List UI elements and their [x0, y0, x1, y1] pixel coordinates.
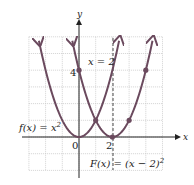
y-axis: y [76, 9, 83, 178]
y-axis-label: y [76, 9, 83, 19]
data-point [143, 68, 148, 73]
data-point [110, 134, 115, 139]
tick-label-origin: 0 [72, 140, 78, 151]
legend-f: f(x) = x2 [18, 121, 62, 133]
dashed-line-label: x = 2 [88, 56, 115, 67]
tick-label-y4: 4 [70, 67, 76, 78]
data-point [76, 68, 81, 73]
graph: x y 4 0 2 x = 2 f(x) = x2 F(x) = (x − 2)… [0, 0, 194, 185]
tick-label-x2: 2 [106, 140, 112, 151]
data-point [93, 118, 98, 123]
x-axis-label: x [183, 132, 188, 142]
legend-F: F(x) = (x − 2)2 [89, 157, 165, 169]
data-point [127, 118, 132, 123]
